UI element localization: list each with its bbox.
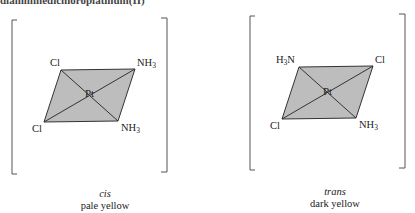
diagram-canvas (0, 0, 415, 213)
cis-ligand-bottom-right: NH3 (121, 123, 140, 135)
trans-ligand-bottom-left: Cl (270, 121, 280, 132)
cis-center-atom: Pt (85, 88, 94, 99)
trans-center-atom: Pt (323, 86, 332, 97)
trans-ligand-top-left: H3N (276, 55, 295, 67)
trans-ligand-top-right: Cl (375, 55, 385, 66)
cis-bracket-left (12, 20, 17, 174)
cis-bracket-right (161, 18, 167, 172)
trans-bracket-right (399, 14, 405, 168)
trans-caption: trans dark yellow (280, 186, 390, 210)
cis-ligand-bottom-left: Cl (32, 124, 42, 135)
cis-isomer-name: cis (50, 188, 160, 200)
cis-isomer-color: pale yellow (81, 200, 130, 211)
trans-bracket-left (250, 16, 255, 170)
trans-ligand-bottom-right: NH3 (359, 120, 378, 132)
cis-ligand-top-right: NH3 (137, 58, 156, 70)
cis-ligand-top-left: Cl (50, 58, 60, 69)
trans-isomer-color: dark yellow (310, 198, 360, 209)
cis-caption: cis pale yellow (50, 188, 160, 212)
trans-isomer-name: trans (280, 186, 390, 198)
